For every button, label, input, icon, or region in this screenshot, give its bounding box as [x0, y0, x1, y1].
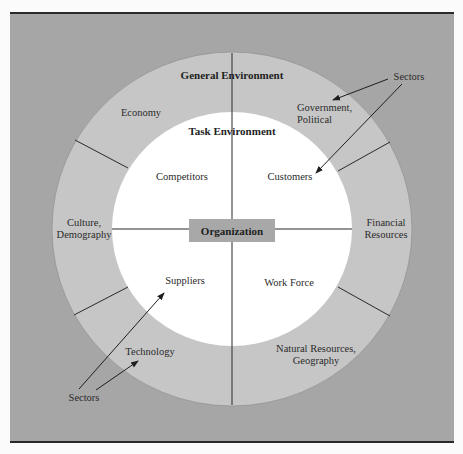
- sector-culture-demography: Culture,Demography: [57, 217, 112, 241]
- sector-suppliers: Suppliers: [165, 275, 205, 287]
- organization-box: Organization: [189, 219, 275, 242]
- sector-work-force: Work Force: [264, 277, 314, 289]
- sector-technology: Technology: [125, 346, 174, 358]
- task-environment-title: Task Environment: [188, 125, 275, 137]
- general-environment-title: General Environment: [181, 69, 284, 81]
- organization-label: Organization: [201, 225, 263, 237]
- sector-customers: Customers: [268, 171, 313, 183]
- sectors-callout-top: Sectors: [394, 71, 425, 83]
- sectors-callout-bottom: Sectors: [69, 392, 100, 404]
- sector-economy: Economy: [121, 107, 161, 119]
- sector-government-political: Government,Political: [297, 102, 352, 126]
- sector-financial-resources: FinancialResources: [364, 217, 407, 241]
- sector-natural-resources-geography: Natural Resources,Geography: [276, 343, 356, 367]
- sector-competitors: Competitors: [156, 171, 208, 183]
